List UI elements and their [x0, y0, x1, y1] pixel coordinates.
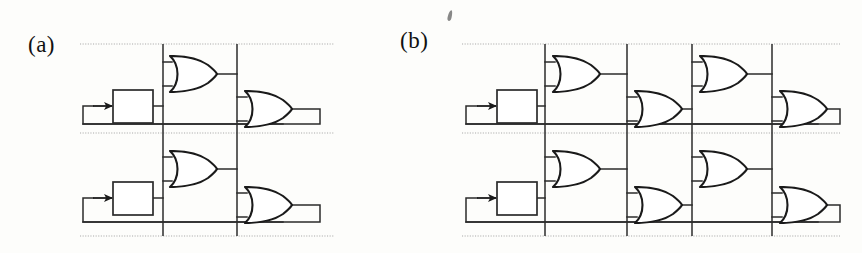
circuit-diagram-svg [0, 0, 862, 253]
panel-b-latches [497, 90, 537, 215]
or-gate-upper-stage1[interactable] [170, 56, 217, 92]
panel-b-circuit [462, 44, 840, 236]
latch-block-lower[interactable] [113, 182, 153, 215]
latch-block-lower[interactable] [497, 182, 537, 215]
latch-block-upper[interactable] [113, 90, 153, 123]
or-gate-upper-stage3[interactable] [700, 56, 747, 92]
or-gate-upper-stage2[interactable] [635, 91, 682, 127]
latch-block-upper[interactable] [497, 90, 537, 123]
panel-a-or-gates [170, 56, 292, 223]
or-gate-upper-stage2[interactable] [245, 91, 292, 127]
or-gate-lower-stage2[interactable] [635, 187, 682, 223]
or-gate-lower-stage3[interactable] [700, 151, 747, 187]
or-gate-upper-stage1[interactable] [553, 56, 600, 92]
or-gate-lower-stage2[interactable] [245, 187, 292, 223]
panel-a-circuit [80, 44, 334, 236]
panel-b-or-gates [553, 56, 827, 223]
panel-a-input-arrows [93, 106, 112, 198]
panel-a-latches [113, 90, 153, 215]
or-gate-upper-stage4[interactable] [780, 91, 827, 127]
or-gate-lower-stage4[interactable] [780, 187, 827, 223]
or-gate-lower-stage1[interactable] [170, 151, 217, 187]
panel-b-input-arrows [477, 106, 496, 198]
figure-root: (a) (b) [0, 0, 862, 253]
or-gate-lower-stage1[interactable] [553, 151, 600, 187]
